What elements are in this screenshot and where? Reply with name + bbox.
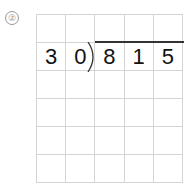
division-bracket-icon xyxy=(86,42,96,72)
grid-cell[interactable] xyxy=(36,70,65,98)
problem-number-label: ② xyxy=(5,11,19,25)
grid-cell[interactable] xyxy=(153,126,182,154)
grid-cell[interactable] xyxy=(65,154,94,182)
grid-cell[interactable] xyxy=(65,14,94,42)
grid-cell[interactable] xyxy=(36,14,65,42)
grid-cell[interactable] xyxy=(36,154,65,182)
division-bar xyxy=(95,41,184,43)
dividend-digit: 5 xyxy=(153,42,182,70)
dividend-digit: 8 xyxy=(94,42,123,70)
grid-cell[interactable] xyxy=(153,70,182,98)
grid-cell[interactable] xyxy=(153,98,182,126)
grid-cell[interactable] xyxy=(65,98,94,126)
divisor-digit: 3 xyxy=(36,42,65,70)
dividend-digit: 1 xyxy=(124,42,153,70)
grid-cell[interactable] xyxy=(94,126,123,154)
grid-cell[interactable] xyxy=(124,154,153,182)
grid-cell[interactable] xyxy=(36,126,65,154)
grid-cell[interactable] xyxy=(153,14,182,42)
grid-cell[interactable] xyxy=(124,14,153,42)
grid-cell[interactable] xyxy=(124,70,153,98)
grid-cell[interactable] xyxy=(124,98,153,126)
grid-cell[interactable] xyxy=(94,14,123,42)
grid-cell[interactable] xyxy=(94,70,123,98)
grid-cell[interactable] xyxy=(94,154,123,182)
grid-cell[interactable] xyxy=(36,98,65,126)
grid-cell[interactable] xyxy=(65,126,94,154)
grid-cell[interactable] xyxy=(153,154,182,182)
grid-cell[interactable] xyxy=(124,126,153,154)
grid-cell[interactable] xyxy=(94,98,123,126)
long-division-grid: 3 0 8 1 5 xyxy=(36,14,183,183)
grid-cell[interactable] xyxy=(65,70,94,98)
